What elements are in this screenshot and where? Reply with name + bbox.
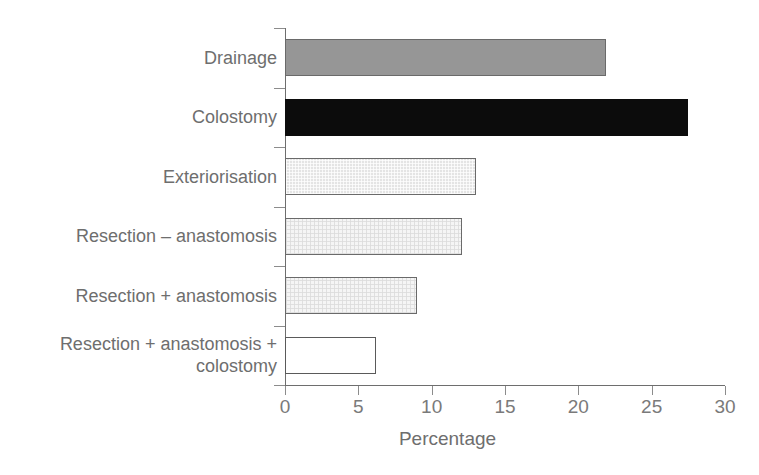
x-tick-label: 0 — [265, 396, 305, 418]
x-tick-label: 20 — [558, 396, 598, 418]
bar — [285, 158, 476, 195]
bar — [285, 218, 462, 255]
x-tick — [578, 386, 579, 395]
x-tick-label: 15 — [485, 396, 525, 418]
x-tick-label: 25 — [632, 396, 672, 418]
x-axis-title: Percentage — [0, 428, 759, 450]
x-tick — [652, 386, 653, 395]
x-axis-title-text: Percentage — [399, 428, 496, 449]
y-tick — [274, 88, 285, 89]
y-tick — [274, 326, 285, 327]
x-tick — [432, 386, 433, 395]
x-tick — [358, 386, 359, 395]
y-axis-label: Resection + anastomosis — [75, 285, 277, 307]
y-tick — [274, 266, 285, 267]
y-tick — [274, 385, 285, 386]
bar — [285, 99, 688, 136]
x-tick-label: 10 — [412, 396, 452, 418]
y-tick — [274, 28, 285, 29]
bar-chart: DrainageColostomyExteriorisationResectio… — [0, 0, 759, 475]
y-tick — [274, 207, 285, 208]
x-tick-label: 5 — [338, 396, 378, 418]
y-axis-label: Resection + anastomosis + colostomy — [60, 333, 277, 377]
y-axis-label: Colostomy — [192, 106, 277, 128]
bar — [285, 337, 376, 374]
x-tick-label: 30 — [705, 396, 745, 418]
bars-area — [285, 28, 725, 385]
y-axis-label: Resection – anastomosis — [76, 225, 277, 247]
bar — [285, 277, 417, 314]
y-axis-label: Drainage — [204, 47, 277, 69]
bar — [285, 39, 606, 76]
x-tick — [285, 386, 286, 395]
y-axis-label: Exteriorisation — [163, 166, 277, 188]
x-tick — [505, 386, 506, 395]
x-tick — [725, 386, 726, 395]
y-tick — [274, 147, 285, 148]
